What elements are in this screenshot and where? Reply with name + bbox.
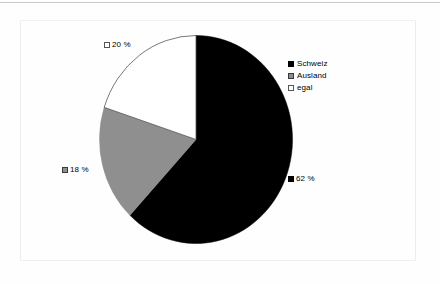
chart-canvas: 20 % 18 % 62 % Schweiz Ausland egal (0, 0, 440, 284)
legend-swatch-ausland-icon (288, 73, 294, 79)
pie-svg (99, 35, 293, 244)
legend-item-schweiz: Schweiz (288, 58, 358, 70)
plot-frame-right-edge (415, 22, 416, 260)
plot-frame-left-edge (20, 22, 21, 260)
plot-frame-bottom-edge (22, 260, 415, 261)
data-label-schweiz-marker-icon (288, 176, 294, 182)
data-label-egal-marker-icon (104, 42, 110, 48)
scan-top-rule (0, 2, 440, 3)
legend-label-schweiz: Schweiz (297, 59, 328, 69)
legend-item-egal: egal (288, 82, 358, 94)
data-label-egal: 20 % (104, 40, 131, 50)
legend-label-ausland: Ausland (297, 71, 327, 81)
data-label-ausland: 18 % (62, 165, 89, 175)
legend-item-ausland: Ausland (288, 70, 358, 82)
legend-label-egal: egal (297, 83, 313, 93)
legend-swatch-egal-icon (288, 85, 294, 91)
legend-swatch-schweiz-icon (288, 61, 294, 67)
chart-legend: Schweiz Ausland egal (288, 58, 358, 94)
data-label-ausland-value: 18 % (70, 165, 89, 174)
pie-chart (99, 35, 293, 244)
data-label-schweiz-value: 62 % (296, 174, 315, 183)
data-label-schweiz: 62 % (288, 174, 315, 184)
data-label-ausland-marker-icon (62, 167, 68, 173)
data-label-egal-value: 20 % (112, 40, 131, 49)
